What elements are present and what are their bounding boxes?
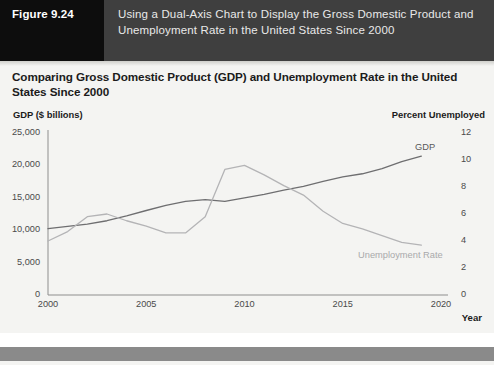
y-tick-right-2: 2 bbox=[461, 262, 491, 272]
y-tick-left-20000: 20,000 bbox=[0, 159, 40, 169]
x-tick-2000: 2000 bbox=[26, 299, 70, 309]
x-tick-2010: 2010 bbox=[223, 299, 267, 309]
chart-plot-area: 05,00010,00015,00020,00025,0000246810122… bbox=[0, 66, 494, 333]
y-tick-right-12: 12 bbox=[461, 127, 491, 137]
y-tick-left-0: 0 bbox=[0, 289, 40, 299]
y-tick-right-4: 4 bbox=[461, 235, 491, 245]
y-tick-left-10000: 10,000 bbox=[0, 224, 40, 234]
y-tick-left-25000: 25,000 bbox=[0, 127, 40, 137]
footer-bar bbox=[0, 347, 494, 361]
figure-caption: Using a Dual-Axis Chart to Display the G… bbox=[104, 0, 494, 38]
y-tick-right-0: 0 bbox=[461, 289, 491, 299]
series-label-unemployment: Unemployment Rate bbox=[358, 250, 443, 260]
y-tick-left-15000: 15,000 bbox=[0, 192, 40, 202]
y-tick-right-6: 6 bbox=[461, 208, 491, 218]
x-tick-2015: 2015 bbox=[321, 299, 365, 309]
x-tick-2020: 2020 bbox=[419, 299, 463, 309]
figure-header: Figure 9.24 Using a Dual-Axis Chart to D… bbox=[0, 0, 494, 61]
x-axis-title: Year bbox=[462, 312, 482, 323]
figure-number: Figure 9.24 bbox=[0, 0, 104, 61]
figure-container: Figure 9.24 Using a Dual-Axis Chart to D… bbox=[0, 0, 494, 365]
chart-card: Comparing Gross Domestic Product (GDP) a… bbox=[0, 66, 494, 333]
footer-padding bbox=[0, 333, 494, 347]
x-tick-2005: 2005 bbox=[124, 299, 168, 309]
chart-svg bbox=[0, 66, 494, 333]
y-tick-left-5000: 5,000 bbox=[0, 257, 40, 267]
series-label-gdp: GDP bbox=[415, 142, 435, 152]
y-tick-right-8: 8 bbox=[461, 181, 491, 191]
y-tick-right-10: 10 bbox=[461, 154, 491, 164]
